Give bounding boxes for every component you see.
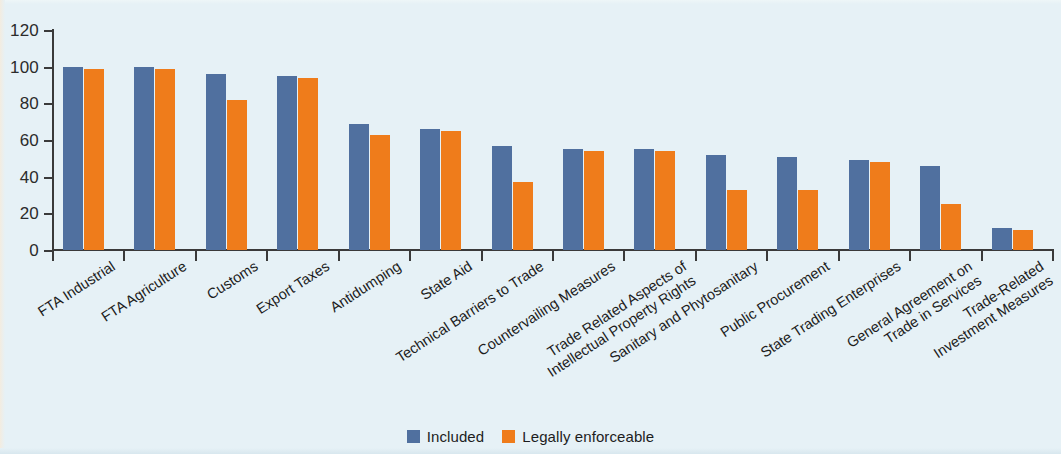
- x-axis-category-label: State Aid: [418, 258, 476, 304]
- plot-area: 020406080100120: [52, 30, 1052, 250]
- x-axis-tick: [338, 251, 340, 261]
- legend-label: Included: [427, 428, 485, 445]
- bar-group: [766, 30, 837, 250]
- legend-swatch-icon: [502, 430, 515, 443]
- bar-group: [481, 30, 552, 250]
- x-axis-tick: [123, 251, 125, 261]
- y-axis-tick-label: 120: [10, 21, 39, 41]
- x-axis-category-label: Trade Related Aspects of Intellectual Pr…: [535, 258, 699, 381]
- bar-legally-enforceable[interactable]: [727, 190, 747, 251]
- bar-group: [623, 30, 694, 250]
- bar-included[interactable]: [63, 67, 83, 250]
- bar-included[interactable]: [920, 166, 940, 250]
- x-axis-tick: [623, 251, 625, 261]
- bar-included[interactable]: [992, 228, 1012, 250]
- y-axis-tick: [44, 213, 52, 215]
- y-axis-tick: [44, 140, 52, 142]
- x-axis-category-label: Technical Barriers to Trade: [393, 258, 547, 366]
- bar-included[interactable]: [134, 67, 154, 250]
- x-axis-category-label: Customs: [204, 258, 261, 303]
- bar-legally-enforceable[interactable]: [655, 151, 675, 250]
- page-edge-top: [0, 0, 1061, 4]
- y-axis-tick: [44, 250, 52, 252]
- bar-group: [909, 30, 980, 250]
- bar-legally-enforceable[interactable]: [1013, 230, 1033, 250]
- bar-group: [981, 30, 1052, 250]
- y-axis-tick: [44, 103, 52, 105]
- bar-included[interactable]: [634, 149, 654, 250]
- x-axis-tick: [195, 251, 197, 261]
- bar-group: [695, 30, 766, 250]
- bar-group: [338, 30, 409, 250]
- x-axis-category-label: Countervailing Measures: [475, 258, 619, 360]
- x-axis-tick: [1052, 251, 1054, 261]
- bar-legally-enforceable[interactable]: [84, 69, 104, 251]
- chart-legend: IncludedLegally enforceable: [0, 428, 1061, 445]
- y-axis-tick-label: 0: [29, 241, 39, 261]
- bar-legally-enforceable[interactable]: [513, 182, 533, 250]
- y-axis-tick-label: 80: [20, 94, 39, 114]
- x-axis-category-label: FTA Industrial: [35, 258, 118, 320]
- bar-group: [195, 30, 266, 250]
- x-axis-tick: [766, 251, 768, 261]
- bar-included[interactable]: [206, 74, 226, 250]
- bar-legally-enforceable[interactable]: [155, 69, 175, 251]
- x-axis-tick: [838, 251, 840, 261]
- bar-legally-enforceable[interactable]: [298, 78, 318, 250]
- y-axis-tick-label: 20: [20, 204, 39, 224]
- x-axis-category-label: Export Taxes: [253, 258, 332, 318]
- legend-item[interactable]: Included: [407, 428, 485, 445]
- x-axis-category-label: FTA Agriculture: [98, 258, 189, 326]
- bar-legally-enforceable[interactable]: [227, 100, 247, 250]
- x-axis-tick: [909, 251, 911, 261]
- legend-label: Legally enforceable: [522, 428, 654, 445]
- bar-group: [123, 30, 194, 250]
- bar-included[interactable]: [563, 149, 583, 250]
- bar-group: [838, 30, 909, 250]
- x-axis-category-label: Antidumping: [327, 258, 404, 316]
- bar-legally-enforceable[interactable]: [798, 190, 818, 251]
- x-axis-tick: [981, 251, 983, 261]
- bar-group: [266, 30, 337, 250]
- bar-included[interactable]: [349, 124, 369, 251]
- bar-included[interactable]: [277, 76, 297, 250]
- bar-legally-enforceable[interactable]: [584, 151, 604, 250]
- x-axis-category-label: Trade-Related Investment Measures: [921, 258, 1056, 362]
- bar-group: [52, 30, 123, 250]
- x-axis-tick: [409, 251, 411, 261]
- x-axis-tick: [481, 251, 483, 261]
- y-axis-tick: [44, 67, 52, 69]
- bar-legally-enforceable[interactable]: [441, 131, 461, 250]
- bar-legally-enforceable[interactable]: [370, 135, 390, 251]
- page-edge-bottom: [0, 448, 1061, 454]
- y-axis-tick-label: 40: [20, 168, 39, 188]
- x-axis-category-label: General Agreement on Trade in Services: [844, 258, 985, 366]
- bar-legally-enforceable[interactable]: [941, 204, 961, 250]
- page-edge-left: [0, 0, 5, 454]
- bar-included[interactable]: [420, 129, 440, 250]
- bar-included[interactable]: [706, 155, 726, 250]
- x-axis-category-label: Sanitary and Phytosanitary: [607, 258, 762, 367]
- bar-group: [409, 30, 480, 250]
- x-axis-tick: [695, 251, 697, 261]
- x-axis-category-label: Public Procurement: [717, 258, 832, 341]
- y-axis-tick: [44, 30, 52, 32]
- y-axis-tick: [44, 177, 52, 179]
- x-axis-category-label: State Trading Enterprises: [758, 258, 904, 361]
- legend-item[interactable]: Legally enforceable: [502, 428, 654, 445]
- y-axis-tick-label: 100: [10, 58, 39, 78]
- bar-legally-enforceable[interactable]: [870, 162, 890, 250]
- legend-swatch-icon: [407, 430, 420, 443]
- bar-included[interactable]: [492, 146, 512, 251]
- x-axis-tick: [266, 251, 268, 261]
- bar-included[interactable]: [777, 157, 797, 251]
- chart-container: 020406080100120 FTA IndustrialFTA Agricu…: [0, 0, 1061, 454]
- x-axis-tick: [552, 251, 554, 261]
- y-axis-tick-label: 60: [20, 131, 39, 151]
- bar-included[interactable]: [849, 160, 869, 250]
- bar-group: [552, 30, 623, 250]
- x-axis-tick: [52, 251, 54, 261]
